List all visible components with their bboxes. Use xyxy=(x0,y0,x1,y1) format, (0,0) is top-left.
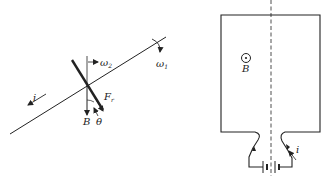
label-force: Fr xyxy=(103,91,115,103)
label-omega-rod: ω2 xyxy=(100,57,112,69)
battery-icon xyxy=(262,161,281,173)
right-figure: B i xyxy=(221,0,320,176)
label-field-right: B xyxy=(241,63,249,74)
diagram-canvas: i ω2 ω1 Fr B θ B i xyxy=(0,0,330,184)
angle-pointer xyxy=(94,108,98,116)
left-figure: i ω2 ω1 Fr B θ xyxy=(10,37,168,134)
angle-arc xyxy=(87,100,94,102)
field-dot xyxy=(245,57,247,59)
label-omega-axis: ω1 xyxy=(156,58,168,70)
label-current: i xyxy=(33,92,36,103)
circuit-loop xyxy=(221,15,320,167)
label-angle: θ xyxy=(96,116,102,127)
label-field: B xyxy=(82,116,90,127)
current-arrow-icon xyxy=(28,94,46,105)
force-arrow xyxy=(95,98,103,111)
label-current-right: i xyxy=(296,144,299,155)
